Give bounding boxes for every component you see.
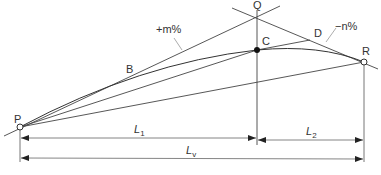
dimension-label-Lv: Lv [186, 144, 196, 159]
point-C-marker [254, 47, 260, 53]
dimension-label-L1: L1 [134, 123, 145, 138]
rising-grade-leader [174, 38, 182, 50]
label-D: D [314, 27, 322, 39]
rising-grade-line [4, 6, 280, 136]
falling-grade-line [232, 8, 378, 69]
chord-PR-line [20, 62, 364, 127]
Lv-sub: v [192, 150, 196, 159]
L2-sub: 2 [312, 131, 317, 140]
L1-sub: 1 [140, 129, 145, 138]
label-P: P [14, 113, 21, 125]
vertical-curve-diagram: P Q C D R B +m% −n% L1 L2 Lv [0, 0, 381, 175]
falling-grade-label: −n% [335, 20, 358, 32]
label-C: C [262, 35, 270, 47]
vertical-curve [20, 49, 364, 128]
point-R-marker [361, 59, 367, 65]
rising-grade-label: +m% [156, 23, 182, 35]
dimension-label-L2: L2 [306, 125, 317, 140]
label-R: R [362, 45, 370, 57]
label-B: B [126, 63, 133, 75]
label-Q: Q [253, 0, 262, 11]
